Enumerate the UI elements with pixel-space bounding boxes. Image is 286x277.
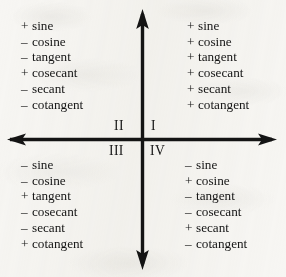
- sign-row: +secant: [185, 220, 247, 236]
- function-name: tangent: [196, 188, 235, 203]
- sign-row: +cosecant: [21, 65, 83, 81]
- quadrant-2-sign-list: +sine –cosine –tangent +cosecant –secant…: [21, 18, 83, 112]
- sign-symbol: +: [21, 188, 32, 204]
- function-name: cotangent: [198, 97, 249, 112]
- sign-symbol: +: [187, 49, 198, 65]
- sign-row: +cosecant: [187, 65, 249, 81]
- sign-symbol: –: [21, 157, 32, 173]
- sign-row: –sine: [21, 157, 83, 173]
- quadrant-label-4: IV: [150, 143, 165, 159]
- quadrant-label-2: II: [114, 118, 124, 134]
- function-name: sine: [196, 157, 217, 172]
- sign-row: –cotangent: [21, 97, 83, 113]
- sign-symbol: +: [187, 18, 198, 34]
- sign-symbol: +: [21, 18, 32, 34]
- function-name: tangent: [32, 188, 71, 203]
- quadrant-label-3: III: [109, 143, 124, 159]
- function-name: sine: [32, 157, 53, 172]
- sign-symbol: –: [21, 173, 32, 189]
- sign-row: +sine: [21, 18, 83, 34]
- function-name: cotangent: [32, 97, 83, 112]
- sign-row: –cosine: [21, 34, 83, 50]
- sign-symbol: –: [21, 34, 32, 50]
- function-name: secant: [32, 220, 65, 235]
- function-name: cosecant: [32, 65, 77, 80]
- function-name: cosine: [32, 173, 66, 188]
- sign-symbol: –: [185, 157, 196, 173]
- sign-symbol: +: [21, 65, 32, 81]
- trig-sign-quadrant-diagram: +sine –cosine –tangent +cosecant –secant…: [0, 0, 286, 277]
- sign-row: –cosine: [21, 173, 83, 189]
- sign-symbol: –: [21, 204, 32, 220]
- sign-symbol: –: [21, 81, 32, 97]
- sign-row: –tangent: [185, 188, 247, 204]
- sign-row: +tangent: [21, 188, 83, 204]
- sign-symbol: –: [185, 188, 196, 204]
- quadrant-1-sign-list: +sine +cosine +tangent +cosecant +secant…: [187, 18, 249, 112]
- sign-symbol: –: [21, 220, 32, 236]
- sign-row: –sine: [185, 157, 247, 173]
- sign-row: –cosecant: [21, 204, 83, 220]
- function-name: cosecant: [198, 65, 243, 80]
- function-name: tangent: [32, 49, 71, 64]
- sign-symbol: –: [185, 236, 196, 252]
- sign-row: +cosine: [187, 34, 249, 50]
- sign-row: +tangent: [187, 49, 249, 65]
- sign-row: –secant: [21, 220, 83, 236]
- function-name: secant: [32, 81, 65, 96]
- sign-symbol: +: [185, 173, 196, 189]
- quadrant-4-sign-list: –sine +cosine –tangent –cosecant +secant…: [185, 157, 247, 251]
- function-name: cosecant: [32, 204, 77, 219]
- function-name: cosine: [32, 34, 66, 49]
- function-name: sine: [198, 18, 219, 33]
- function-name: secant: [198, 81, 231, 96]
- function-name: cotangent: [32, 236, 83, 251]
- sign-symbol: –: [21, 97, 32, 113]
- sign-row: –secant: [21, 81, 83, 97]
- sign-symbol: +: [21, 236, 32, 252]
- sign-symbol: +: [187, 34, 198, 50]
- function-name: cosecant: [196, 204, 241, 219]
- sign-symbol: –: [185, 204, 196, 220]
- quadrant-3-sign-list: –sine –cosine +tangent –cosecant –secant…: [21, 157, 83, 251]
- function-name: tangent: [198, 49, 237, 64]
- function-name: cotangent: [196, 236, 247, 251]
- sign-symbol: +: [187, 65, 198, 81]
- function-name: cosine: [198, 34, 232, 49]
- sign-row: +sine: [187, 18, 249, 34]
- function-name: cosine: [196, 173, 230, 188]
- sign-symbol: +: [187, 97, 198, 113]
- sign-row: +cosine: [185, 173, 247, 189]
- function-name: secant: [196, 220, 229, 235]
- sign-symbol: –: [21, 49, 32, 65]
- sign-row: –tangent: [21, 49, 83, 65]
- sign-row: –cosecant: [185, 204, 247, 220]
- sign-row: +cotangent: [21, 236, 83, 252]
- sign-row: –cotangent: [185, 236, 247, 252]
- quadrant-label-1: I: [151, 118, 156, 134]
- sign-row: +cotangent: [187, 97, 249, 113]
- sign-symbol: +: [185, 220, 196, 236]
- function-name: sine: [32, 18, 53, 33]
- sign-symbol: +: [187, 81, 198, 97]
- sign-row: +secant: [187, 81, 249, 97]
